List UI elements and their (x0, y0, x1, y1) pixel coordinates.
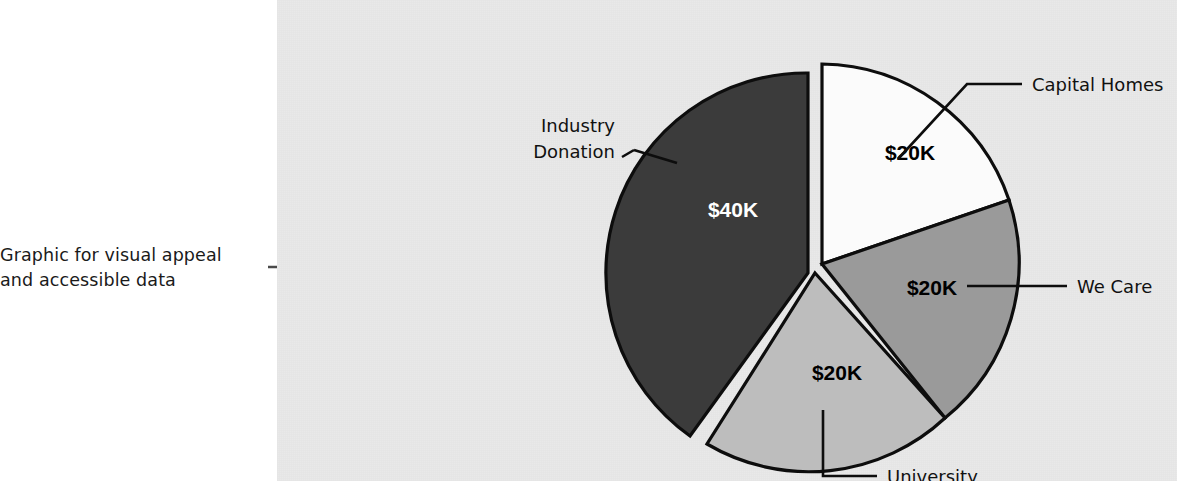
figure-panel: $40K $20K $20K $20K Capital Homes We Car… (277, 0, 1177, 481)
callout-label-university: University (887, 466, 978, 481)
callout-label-industry-donation-line2: Donation (533, 141, 615, 162)
callout-label-industry-donation-line1: Industry (541, 115, 615, 136)
figure-caption: Graphic for visual appeal and accessible… (0, 243, 270, 293)
slice-value-we-care: $20K (907, 276, 957, 299)
callout-label-capital-homes: Capital Homes (1032, 74, 1163, 95)
pie-chart: $40K $20K $20K $20K Capital Homes We Car… (277, 0, 1177, 481)
caption-line-1: Graphic for visual appeal (0, 243, 270, 268)
slice-value-industry-donation: $40K (708, 198, 758, 221)
slice-value-university: $20K (812, 361, 862, 384)
caption-line-2: and accessible data (0, 268, 270, 293)
callout-label-we-care: We Care (1077, 276, 1152, 297)
